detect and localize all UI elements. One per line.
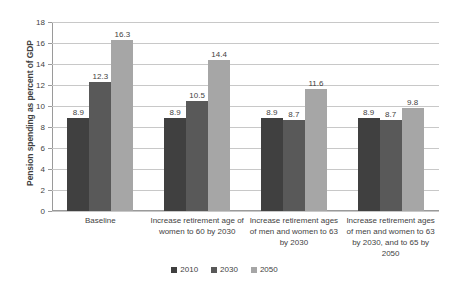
bar-value-label: 8.9 <box>266 108 277 117</box>
bar-slot: 14.4 <box>208 22 230 211</box>
bar-2010[interactable] <box>164 118 186 211</box>
legend-item-2050[interactable]: 2050 <box>251 265 278 274</box>
bar-2030[interactable] <box>283 120 305 211</box>
chart-legend: 201020302050 <box>0 265 449 274</box>
legend-label: 2010 <box>180 265 198 274</box>
y-axis-tick-label: 16 <box>36 39 45 48</box>
bar-slot: 9.8 <box>402 22 424 211</box>
bar-value-label: 14.4 <box>211 50 227 59</box>
bar-value-label: 10.5 <box>189 91 205 100</box>
bar-slot: 8.9 <box>358 22 380 211</box>
bar-2010[interactable] <box>261 118 283 211</box>
bar-value-label: 9.8 <box>407 98 418 107</box>
legend-label: 2050 <box>260 265 278 274</box>
bar-value-label: 8.9 <box>170 108 181 117</box>
bar-group: 8.912.316.3 <box>52 22 149 211</box>
bar-slot: 16.3 <box>111 22 133 211</box>
bar-2050[interactable] <box>111 40 133 211</box>
bar-slot: 8.9 <box>261 22 283 211</box>
bar-chart: Pension spending as percent of GDP 18161… <box>0 0 449 294</box>
bar-2010[interactable] <box>67 118 89 211</box>
plot-area: 181614121086420 8.912.316.38.910.514.48.… <box>52 22 439 211</box>
x-axis-category-labels: BaselineIncrease retirement age of women… <box>52 215 439 261</box>
bar-group: 8.98.711.6 <box>246 22 343 211</box>
x-axis-label: Increase retirement age of women to 60 b… <box>149 215 246 261</box>
legend-swatch-icon <box>171 267 177 273</box>
bar-group: 8.98.79.8 <box>342 22 439 211</box>
bar-2050[interactable] <box>208 60 230 211</box>
bar-2030[interactable] <box>380 120 402 211</box>
x-axis-label: Increase retirement ages of men and wome… <box>246 215 343 261</box>
bar-value-label: 8.7 <box>385 110 396 119</box>
y-axis-tick <box>48 211 52 212</box>
bar-groups: 8.912.316.38.910.514.48.98.711.68.98.79.… <box>52 22 439 211</box>
bar-slot: 8.7 <box>283 22 305 211</box>
gridline <box>52 211 439 212</box>
y-axis-tick-label: 0 <box>41 207 45 216</box>
y-axis-tick-label: 14 <box>36 60 45 69</box>
legend-item-2010[interactable]: 2010 <box>171 265 198 274</box>
bar-slot: 12.3 <box>89 22 111 211</box>
y-axis-tick-label: 10 <box>36 102 45 111</box>
x-axis-label: Baseline <box>52 215 149 261</box>
bar-group: 8.910.514.4 <box>149 22 246 211</box>
bar-value-label: 12.3 <box>93 72 109 81</box>
legend-item-2030[interactable]: 2030 <box>211 265 238 274</box>
y-axis-title: Pension spending as percent of GDP <box>25 23 35 203</box>
bar-value-label: 8.9 <box>363 108 374 117</box>
y-axis-tick-label: 12 <box>36 81 45 90</box>
y-axis-tick-label: 6 <box>41 144 45 153</box>
bar-value-label: 16.3 <box>115 30 131 39</box>
bar-2030[interactable] <box>186 101 208 211</box>
legend-swatch-icon <box>211 267 217 273</box>
y-axis-tick-label: 2 <box>41 186 45 195</box>
bar-slot: 8.9 <box>164 22 186 211</box>
legend-label: 2030 <box>220 265 238 274</box>
bar-2030[interactable] <box>89 82 111 211</box>
bar-value-label: 8.7 <box>288 110 299 119</box>
y-axis-tick-label: 18 <box>36 18 45 27</box>
x-axis-label: Increase retirement ages of men and wome… <box>342 215 439 261</box>
bar-2010[interactable] <box>358 118 380 211</box>
y-axis-tick-label: 8 <box>41 123 45 132</box>
bar-value-label: 11.6 <box>308 79 323 88</box>
bar-value-label: 8.9 <box>73 108 84 117</box>
bar-slot: 10.5 <box>186 22 208 211</box>
bar-slot: 8.9 <box>67 22 89 211</box>
y-axis-tick-label: 4 <box>41 165 45 174</box>
bar-slot: 11.6 <box>305 22 327 211</box>
legend-swatch-icon <box>251 267 257 273</box>
bar-2050[interactable] <box>305 89 327 211</box>
bar-2050[interactable] <box>402 108 424 211</box>
bar-slot: 8.7 <box>380 22 402 211</box>
